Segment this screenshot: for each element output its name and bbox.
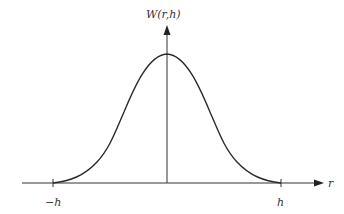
kernel-function-diagram: W(r,h) r −h h <box>0 0 344 214</box>
r-axis-arrow-icon <box>314 180 324 187</box>
w-axis-label: W(r,h) <box>146 8 181 21</box>
r-axis-label: r <box>328 177 334 190</box>
w-axis-arrow-icon <box>164 25 171 35</box>
tick-label-plus-h: h <box>277 196 284 209</box>
tick-label-minus-h: −h <box>45 196 61 209</box>
